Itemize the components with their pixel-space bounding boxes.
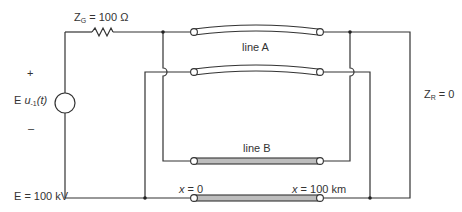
x-end-label: x = 100 km	[292, 184, 346, 195]
circuit-diagram	[0, 0, 462, 212]
terminal-icon	[317, 29, 324, 36]
terminal-icon	[191, 195, 198, 202]
terminal-icon	[191, 29, 198, 36]
terminal-icon	[191, 158, 198, 165]
junction-dot	[348, 30, 352, 34]
wire-right-junction-vertical	[320, 32, 354, 161]
terminal-icon	[317, 195, 324, 202]
resistor-zg	[92, 28, 113, 36]
line-b-label: line B	[243, 143, 271, 154]
terminal-icon	[191, 69, 198, 76]
voltage-source-icon	[55, 93, 75, 113]
receiver-impedance-label: ZR = 0	[424, 89, 454, 101]
terminal-icon	[317, 69, 324, 76]
wire-lineA-lower-left	[145, 72, 192, 198]
source-label: E u-1(t)	[14, 95, 47, 107]
wire-lineA-lower-right	[320, 72, 370, 198]
junction-dot	[161, 30, 165, 34]
source-plus-label: +	[27, 68, 33, 79]
junction-dot	[143, 196, 147, 200]
source-value-label: E = 100 kV	[14, 191, 68, 202]
source-minus-label: –	[28, 123, 34, 134]
x-start-label: x = 0	[179, 184, 203, 195]
wire-junction-left-vertical	[163, 32, 192, 161]
terminal-icon	[317, 158, 324, 165]
generator-impedance-label: ZG = 100 Ω	[74, 12, 128, 24]
wire-lineA-upper-right	[320, 32, 410, 198]
junction-dot	[368, 196, 372, 200]
line-a-label: line A	[242, 42, 269, 53]
